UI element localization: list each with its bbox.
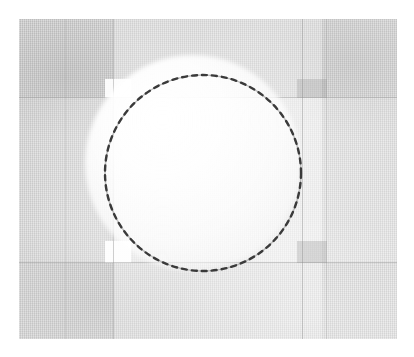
screenshot-canvas (0, 0, 414, 357)
circle-dashed-stroke (105, 75, 301, 271)
scanned-figure-plate (19, 19, 397, 339)
dashed-circle-annotation (19, 19, 397, 339)
